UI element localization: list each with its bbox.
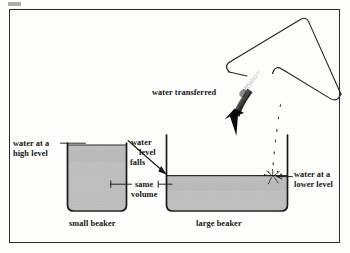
label-same-volume-line2: volume bbox=[131, 190, 157, 200]
transfer-arrow-head bbox=[225, 109, 245, 136]
transfer-arrow-icon bbox=[225, 69, 262, 136]
droplet-icon bbox=[273, 161, 274, 165]
water-stream-group bbox=[264, 104, 282, 184]
label-small-beaker-caption: small beaker bbox=[69, 219, 116, 229]
droplet-icon bbox=[275, 139, 276, 143]
label-water-level-falls-line2: level bbox=[139, 148, 156, 158]
droplet-icon bbox=[278, 116, 279, 120]
small-beaker-water-fill bbox=[67, 144, 127, 212]
label-same-volume-line1: same bbox=[135, 180, 153, 190]
pouring-beaker-spout-lip bbox=[273, 68, 285, 74]
pouring-beaker-base-edge bbox=[309, 22, 341, 95]
label-large-beaker-caption: large beaker bbox=[196, 219, 242, 229]
droplet-icon bbox=[276, 128, 277, 132]
pouring-beaker-rim-corner bbox=[227, 62, 230, 72]
figure-root: water at a high level water level falls … bbox=[0, 0, 350, 253]
small-beaker-group bbox=[67, 143, 127, 212]
pouring-beaker-rim-edge bbox=[229, 72, 247, 76]
label-water-lower-level-line2: lower level bbox=[294, 180, 333, 190]
label-water-level-falls-line1: water bbox=[131, 138, 152, 148]
figure-illustration bbox=[0, 0, 350, 253]
label-water-high-level-line1: water at a bbox=[13, 139, 49, 149]
label-water-transferred: water transferred bbox=[152, 88, 216, 98]
label-water-lower-level-line1: water at a bbox=[294, 170, 330, 180]
label-water-level-falls-line3: falls bbox=[130, 158, 145, 168]
droplet-icon bbox=[280, 104, 281, 108]
pouring-beaker-far-wall bbox=[229, 18, 308, 62]
label-water-high-level-line2: high level bbox=[13, 149, 48, 159]
droplet-icon bbox=[274, 150, 275, 154]
